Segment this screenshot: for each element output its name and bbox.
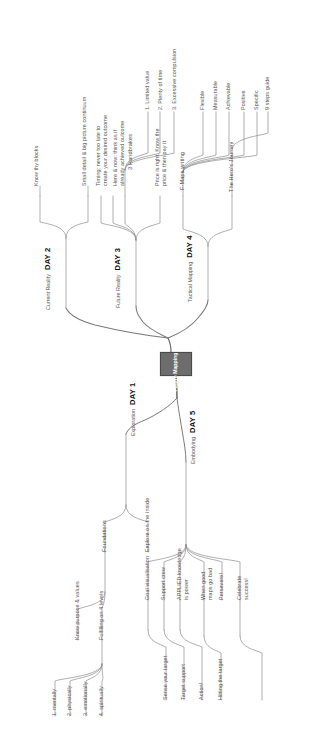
center-label-line1: Future [173, 375, 179, 391]
leaf-positive[interactable]: Positive [241, 90, 247, 110]
branch-day1-day: DAY 1 [128, 382, 137, 405]
leaf-level-1-mentally[interactable]: 1. mentally [52, 689, 58, 716]
leaf-price-line2: price & then pay it [162, 141, 168, 186]
leaf-timing-line1[interactable]: Timing: never too late to [96, 126, 102, 186]
center-node-label: Future Mapping [161, 361, 191, 383]
node-heros-journey[interactable]: The Hero's Journey [229, 142, 235, 192]
leaf-flexible[interactable]: Flexible [200, 91, 206, 110]
node-fmaps-writing[interactable]: F-Maps writing [180, 152, 186, 190]
mindmap-canvas: Future Mapping Current RealityDAY 2 Know… [0, 0, 332, 743]
leaf-when-good-maps-line1[interactable]: When good [201, 572, 207, 600]
leaf-persevere[interactable]: Persevere! [219, 573, 225, 600]
leaf-level-3-emotionally[interactable]: 3. emotionally [83, 681, 89, 716]
center-node[interactable]: Future Mapping [160, 352, 192, 376]
leaf-here-now-line2: already achieved outcome [120, 121, 126, 186]
leaf-know-purpose-values[interactable]: Know purpose & values [75, 581, 81, 640]
leaf-handbrake-1[interactable]: 1. Limited value [145, 71, 151, 110]
leaf-target-support[interactable]: Target support [181, 664, 187, 700]
node-fulfilling-4-levels[interactable]: Fulfilling on 4 levels [99, 591, 105, 640]
leaf-timing-line2: create your desired outcome [103, 115, 109, 186]
branch-day3[interactable]: Future RealityDAY 3 [108, 248, 126, 308]
node-goal-visualisation[interactable]: Goal visualisation [145, 556, 151, 600]
leaf-level-4-spiritually[interactable]: 4. spiritually [99, 686, 105, 716]
leaf-celebrate-line2: success! [244, 578, 250, 600]
center-label-line2: Mapping [173, 353, 179, 374]
branch-day5-day: DAY 5 [188, 410, 197, 433]
node-explore-on-the-inside[interactable]: Explore on the inside [145, 498, 151, 552]
node-support-crew[interactable]: Support crew [161, 567, 167, 600]
leaf-level-2-physically[interactable]: 2. physically [67, 685, 73, 716]
leaf-small-detail-big-picture[interactable]: Small detail & big picture continuum [82, 97, 88, 186]
leaf-know-thy-blocks[interactable]: Know thy blocks [34, 146, 40, 186]
branch-day5-subtitle: Embodying [190, 437, 196, 464]
leaf-specific[interactable]: Specific [254, 90, 260, 110]
leaf-here-now-line1[interactable]: Here & now: think as if [113, 130, 119, 186]
branch-day4[interactable]: Tactical MappingDAY 4 [180, 235, 198, 302]
leaf-price-line1[interactable]: Price is right: Know the [155, 128, 161, 186]
node-applied-knowledge-line2: is power [184, 579, 190, 600]
branch-day1[interactable]: ExplorationDAY 1 [123, 382, 141, 436]
branch-day2-subtitle: Current Reality [45, 274, 51, 310]
leaf-achievable[interactable]: Achievable [226, 83, 232, 110]
leaf-9-steps-guide[interactable]: 9 steps guide [265, 77, 271, 110]
node-applied-knowledge-line1[interactable]: APPLIED knowledge [177, 548, 183, 600]
branch-day2[interactable]: Current RealityDAY 2 [38, 248, 56, 310]
branch-day4-subtitle: Tactical Mapping [187, 262, 193, 302]
leaf-measurable[interactable]: Measurable [213, 81, 219, 110]
branch-day2-day: DAY 2 [43, 248, 52, 271]
node-3-handbrakes[interactable]: 3 Handbrakes [128, 134, 134, 170]
leaf-when-good-maps-line2: maps go bad [208, 568, 214, 600]
branch-day4-day: DAY 4 [185, 235, 194, 258]
leaf-handbrake-3[interactable]: 3. Excessive compulsion [172, 49, 178, 110]
leaf-sense-your-target[interactable]: Sense your target [163, 656, 169, 700]
branch-day3-subtitle: Future Reality [115, 274, 121, 308]
branch-day5[interactable]: EmbodyingDAY 5 [183, 410, 201, 464]
leaf-celebrate-line1[interactable]: Celebrate [237, 576, 243, 600]
branch-day3-day: DAY 3 [113, 248, 122, 271]
leaf-hitting-the-target[interactable]: Hitting the target [218, 659, 224, 700]
leaf-handbrake-2[interactable]: 2. Plenty of time [158, 70, 164, 110]
node-foundations[interactable]: Foundations [102, 520, 108, 552]
branch-day1-subtitle: Exploration [130, 409, 136, 436]
leaf-action[interactable]: Action! [199, 683, 205, 700]
